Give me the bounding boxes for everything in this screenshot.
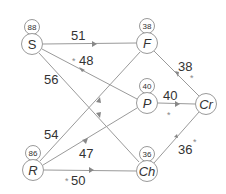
optimal-star-icon: *	[190, 73, 194, 83]
nodes: S F P Cr R Ch	[22, 33, 217, 182]
diagram-svg: 51 * 48 56 54 47 * 50 38 * 40 * 36 * 88 …	[0, 0, 226, 194]
edge-labels: 51 * 48 56 54 47 * 50 38 * 40 * 36 *	[44, 28, 197, 188]
weight-S: 88	[28, 23, 37, 32]
optimal-star-icon: *	[167, 110, 171, 120]
network-diagram: 51 * 48 56 54 47 * 50 38 * 40 * 36 * 88 …	[0, 0, 226, 194]
node-label-Cr: Cr	[199, 97, 213, 112]
edge-label-R-F: 54	[44, 127, 58, 142]
optimal-star-icon: *	[72, 56, 76, 66]
node-label-F: F	[143, 36, 152, 51]
arrow-icon	[96, 112, 101, 118]
optimal-star-icon: *	[193, 137, 197, 147]
edge-label-R-Ch: 50	[71, 173, 85, 188]
edge-R-F	[40, 52, 140, 161]
edge-label-P-Cr: 40	[163, 88, 177, 103]
edge-label-Ch-Cr: 36	[178, 142, 192, 157]
edge-label-S-Ch: 56	[44, 72, 58, 87]
weight-Ch: 36	[143, 150, 152, 159]
node-S: S	[22, 34, 43, 55]
node-label-Ch: Ch	[139, 164, 156, 179]
arrow-icon	[92, 41, 97, 47]
node-P: P	[137, 93, 158, 114]
node-Cr: Cr	[196, 94, 217, 115]
node-Ch: Ch	[137, 161, 158, 182]
node-F: F	[137, 33, 158, 54]
node-label-S: S	[28, 37, 37, 52]
weight-F: 38	[143, 22, 152, 31]
arrow-icon	[174, 134, 178, 138]
arrow-icon	[89, 167, 94, 173]
node-label-R: R	[28, 163, 37, 178]
edge-label-S-P: 48	[79, 53, 93, 68]
edge-label-R-P: 47	[79, 146, 93, 161]
weight-P: 40	[143, 82, 152, 91]
node-R: R	[23, 160, 44, 181]
edge-label-S-F: 51	[71, 28, 85, 43]
optimal-star-icon: *	[65, 176, 69, 186]
edge-label-F-Cr: 38	[178, 59, 192, 74]
weight-R: 86	[29, 149, 38, 158]
edge-S-F	[43, 43, 136, 44]
edges	[39, 41, 199, 173]
node-label-P: P	[143, 96, 152, 111]
